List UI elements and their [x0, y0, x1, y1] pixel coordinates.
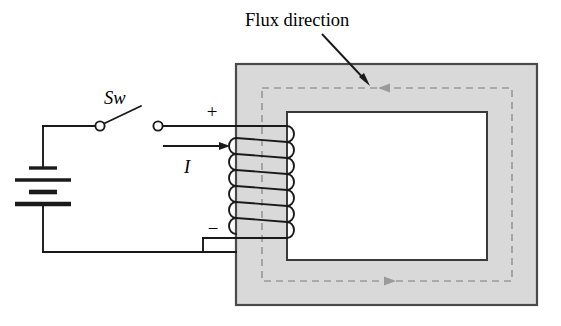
current-arrowhead — [219, 142, 230, 150]
core-window-outline — [287, 112, 487, 260]
current-indicator: I — [163, 142, 230, 177]
switch-label: Sw — [104, 88, 126, 108]
core-group — [236, 64, 537, 305]
figure-canvas: Flux direction + − — [0, 0, 561, 326]
switch-symbol[interactable]: Sw — [95, 88, 162, 131]
current-label: I — [183, 157, 191, 177]
switch-terminal-left[interactable] — [95, 121, 104, 130]
switch-blade[interactable] — [101, 106, 141, 125]
battery-symbol — [15, 168, 71, 204]
magnetic-circuit-diagram: Flux direction + − — [0, 0, 561, 326]
terminal-plus-label: + — [207, 101, 218, 122]
flux-direction-label: Flux direction — [245, 10, 349, 30]
switch-terminal-right[interactable] — [153, 121, 162, 130]
terminal-minus-label: − — [208, 218, 219, 239]
